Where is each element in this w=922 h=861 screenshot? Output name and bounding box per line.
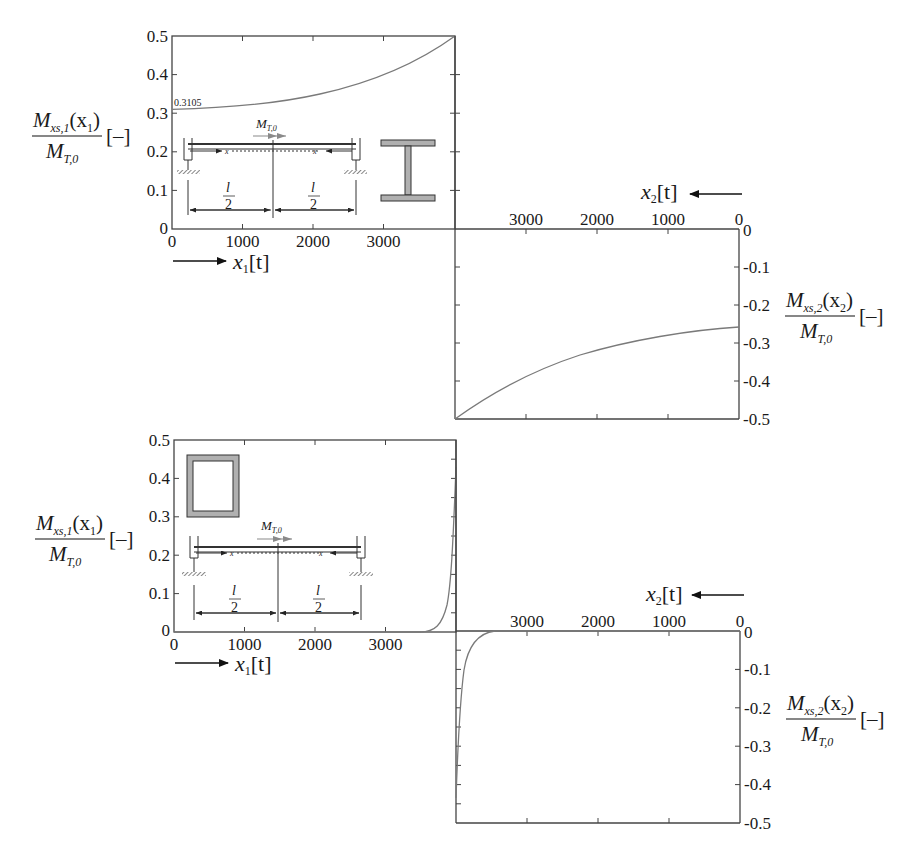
svg-text:2000: 2000 [581, 612, 615, 631]
svg-text:-0.4: -0.4 [744, 775, 771, 794]
svg-text:x2[t]: x2[t] [640, 179, 678, 206]
lower-left-xtick-labels: 0 1000 2000 3000 [170, 635, 403, 654]
lower-right-ylabel: Mxs,2(x2) MT,0 [–] [786, 691, 885, 749]
ytick-0.3: 0.3 [147, 104, 168, 123]
upper-x1-label: x1[t] [173, 249, 270, 276]
lower-right-ticks [456, 631, 740, 823]
svg-text:x: x [224, 147, 229, 156]
i-beam-section-icon [381, 140, 435, 201]
svg-text:Mxs,2(x2): Mxs,2(x2) [786, 691, 854, 718]
ytick-0: 0 [160, 219, 169, 238]
svg-text:-0.2: -0.2 [744, 699, 771, 718]
svg-text:[–]: [–] [109, 527, 134, 551]
svg-text:l: l [226, 180, 230, 195]
svg-text:l: l [311, 180, 315, 195]
beam-diagram-upper-labels: x x l 2 l 2 MT,0 [223, 116, 320, 212]
svg-text:0: 0 [744, 623, 753, 642]
svg-text:0.4: 0.4 [149, 469, 171, 488]
svg-text:3000: 3000 [369, 635, 403, 654]
svg-text:0.3: 0.3 [149, 507, 170, 526]
value-annotation: 0.3105 [174, 97, 202, 108]
svg-text:Mxs,1(x1): Mxs,1(x1) [35, 511, 103, 538]
xtick-2000: 2000 [296, 232, 330, 251]
upper-figure: 0.5 0.4 0.3 0.2 0.1 0 0 1000 2000 3000 0… [32, 27, 884, 429]
svg-text:x: x [229, 549, 234, 558]
beam-diagram-lower-labels: x x l 2 l 2 MT,0 [229, 518, 325, 615]
svg-text:0: 0 [736, 612, 745, 631]
figure-canvas: 0.5 0.4 0.3 0.2 0.1 0 0 1000 2000 3000 0… [0, 0, 922, 861]
svg-text:[–]: [–] [860, 707, 885, 731]
lower-left-ylabel: Mxs,1(x1) MT,0 [–] [35, 511, 134, 569]
lower-left-ytick-labels: 0.5 0.4 0.3 0.2 0.1 0 [149, 431, 171, 640]
svg-text:x: x [318, 549, 323, 558]
curve-open-x2 [455, 327, 739, 419]
svg-text:0: 0 [170, 635, 179, 654]
svg-text:0.2: 0.2 [149, 546, 170, 565]
upper-left-ylabel: Mxs,1(x1) MT,0 [–] [32, 108, 131, 166]
svg-text:Mxs,2(x2): Mxs,2(x2) [785, 288, 853, 315]
svg-text:-0.1: -0.1 [743, 258, 770, 277]
svg-text:2: 2 [225, 197, 232, 212]
curve-open-x1 [172, 36, 455, 109]
beam-diagram-upper [177, 138, 367, 218]
svg-text:0.1: 0.1 [149, 584, 170, 603]
upper-x2-label: x2[t] [640, 179, 742, 206]
svg-text:0: 0 [743, 221, 752, 240]
ytick-0.2: 0.2 [147, 142, 168, 161]
svg-text:2000: 2000 [298, 635, 332, 654]
svg-text:x1[t]: x1[t] [232, 249, 270, 276]
svg-text:-0.2: -0.2 [743, 296, 770, 315]
lower-x2-label: x2[t] [645, 581, 744, 608]
svg-text:l: l [316, 583, 320, 598]
ytick-0.5: 0.5 [147, 27, 168, 46]
svg-text:MT,0: MT,0 [800, 722, 833, 749]
svg-text:-0.3: -0.3 [743, 334, 770, 353]
ytick-0.4: 0.4 [147, 65, 169, 84]
ytick-0.1: 0.1 [147, 181, 168, 200]
svg-text:-0.5: -0.5 [743, 410, 770, 429]
svg-text:[–]: [–] [859, 304, 884, 328]
upper-left-xtick-labels: 0 1000 2000 3000 [168, 232, 401, 251]
svg-text:x2[t]: x2[t] [645, 581, 683, 608]
svg-text:1000: 1000 [652, 612, 686, 631]
lower-right-xtick-labels: 3000 2000 1000 0 [510, 612, 744, 631]
svg-text:MT,0: MT,0 [45, 139, 78, 166]
beam-diagram-lower [182, 536, 373, 622]
svg-text:1000: 1000 [651, 210, 685, 229]
svg-text:MT,0: MT,0 [48, 542, 81, 569]
svg-text:-0.1: -0.1 [744, 660, 771, 679]
svg-text:MT,0: MT,0 [260, 518, 282, 535]
upper-right-ylabel: Mxs,2(x2) MT,0 [–] [785, 288, 884, 346]
lower-right-ytick-labels: 0 -0.1 -0.2 -0.3 -0.4 -0.5 [744, 623, 771, 833]
lower-x1-label: x1[t] [175, 651, 272, 678]
box-section-icon [187, 455, 239, 517]
svg-text:2: 2 [231, 600, 238, 615]
xtick-3000: 3000 [367, 232, 401, 251]
curve-closed-x2 [456, 631, 740, 798]
xtick-0: 0 [168, 232, 177, 251]
svg-text:0.5: 0.5 [149, 431, 170, 450]
upper-right-ytick-labels: 0 -0.1 -0.2 -0.3 -0.4 -0.5 [743, 221, 770, 429]
svg-text:-0.3: -0.3 [744, 737, 771, 756]
svg-text:0: 0 [735, 210, 744, 229]
svg-text:x: x [312, 147, 317, 156]
upper-right-ticks [455, 75, 739, 419]
lower-figure: 0.5 0.4 0.3 0.2 0.1 0 0 1000 2000 3000 M… [35, 431, 885, 833]
svg-text:l: l [232, 583, 236, 598]
upper-left-ytick-labels: 0.5 0.4 0.3 0.2 0.1 0 [147, 27, 169, 238]
upper-right-xtick-labels: 3000 2000 1000 0 [509, 210, 743, 229]
svg-text:3000: 3000 [510, 612, 544, 631]
svg-text:-0.4: -0.4 [743, 372, 770, 391]
svg-text:2: 2 [315, 600, 322, 615]
svg-text:0: 0 [162, 621, 171, 640]
svg-text:MT,0: MT,0 [799, 319, 832, 346]
svg-text:-0.5: -0.5 [744, 814, 771, 833]
svg-text:[–]: [–] [106, 124, 131, 148]
svg-text:2: 2 [310, 197, 317, 212]
moment-label: MT,0 [255, 116, 277, 133]
svg-text:x1[t]: x1[t] [234, 651, 272, 678]
svg-text:2000: 2000 [580, 210, 614, 229]
svg-text:Mxs,1(x1): Mxs,1(x1) [32, 108, 100, 135]
svg-text:3000: 3000 [509, 210, 543, 229]
